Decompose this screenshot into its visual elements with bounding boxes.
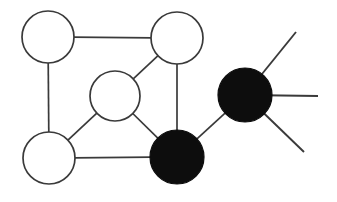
right-filled-node <box>218 68 272 122</box>
edge-top-left-to-bottom-left <box>48 61 49 133</box>
top-left-node <box>22 11 74 63</box>
bottom-left-node <box>23 132 75 184</box>
edge-bottom-left-to-bottom-filled <box>73 157 151 158</box>
top-right-node <box>151 12 203 64</box>
edge-top-left-to-top-right <box>72 37 152 38</box>
center-node <box>90 71 140 121</box>
bottom-filled-node <box>150 130 204 184</box>
edge-center-to-bottom-filled <box>132 112 159 139</box>
edge-top-right-to-center <box>132 55 159 80</box>
graph-canvas <box>0 0 337 202</box>
edge-center-to-bottom-left <box>67 112 98 141</box>
edge-bottom-filled-to-right-filled <box>196 112 226 140</box>
graph-figure <box>0 0 337 202</box>
